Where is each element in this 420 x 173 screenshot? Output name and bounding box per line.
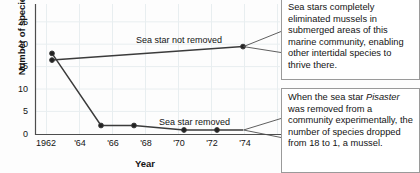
leader-line-top-icon: [244, 32, 282, 53]
y-tick-15: 15: [6, 62, 28, 71]
callout-box-bottom: When the sea star Pisaster was removed f…: [281, 88, 420, 173]
y-tick-5: 5: [6, 107, 28, 116]
callout-bottom-text-after: was removed from a community experimenta…: [288, 104, 413, 149]
x-tick-66: '66: [107, 139, 119, 148]
y-tick-0: 0: [6, 130, 28, 139]
y-tick-10: 10: [6, 85, 28, 94]
x-tick-1962: 1962: [36, 139, 56, 148]
callout-box-top: Sea stars completely eliminated mussels …: [281, 0, 420, 80]
line-chart: Number of species Year 25 20 15 10 5 0 1…: [0, 0, 282, 173]
species-name-pisaster: Pisaster: [366, 92, 400, 102]
x-tick-72: '72: [206, 139, 218, 148]
callout-bottom-text-before: When the sea star: [288, 92, 366, 102]
callout-top-text: Sea stars completely eliminated mussels …: [288, 2, 404, 70]
x-axis-title: Year: [30, 158, 260, 169]
series-sea-star-not-removed: [50, 44, 246, 62]
x-tick-68: '68: [140, 139, 152, 148]
figure-root: Number of species Year 25 20 15 10 5 0 1…: [0, 0, 420, 173]
x-tick-70: '70: [173, 139, 185, 148]
y-tick-20: 20: [6, 40, 28, 49]
series-label-not-removed: Sea star not removed: [136, 35, 222, 45]
series-label-removed: Sea star removed: [159, 117, 230, 127]
grid-vertical: [47, 4, 278, 134]
x-tick-64: '64: [74, 139, 86, 148]
y-tick-25: 25: [6, 18, 28, 27]
x-tick-74: '74: [239, 139, 251, 148]
